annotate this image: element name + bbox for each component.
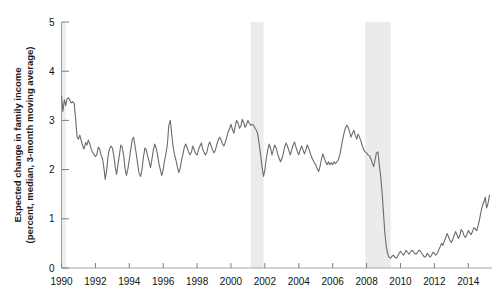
x-axis-tick-label: 1996	[152, 276, 175, 287]
x-axis-tick-label: 2008	[355, 276, 378, 287]
recession-band	[62, 22, 66, 268]
y-axis-title-group: Expected change in family income(percent…	[12, 47, 35, 244]
data-line-group	[62, 96, 490, 258]
y-axis-tick-label: 3	[49, 115, 55, 126]
y-axis-tick-label: 5	[49, 17, 55, 28]
x-axis-tick-label: 1992	[84, 276, 107, 287]
x-axis-tick-label: 2006	[322, 276, 345, 287]
x-axis-tick-label: 2004	[288, 276, 311, 287]
x-axis-tick-label: 2010	[389, 276, 412, 287]
recession-band	[365, 22, 390, 268]
y-axis-ticks-group: 012345	[49, 17, 69, 274]
chart-figure: 012345 199019921994199619982000200220042…	[0, 0, 499, 303]
y-axis-title-line-1: Expected change in family income	[12, 67, 23, 222]
y-axis-tick-label: 1	[49, 213, 55, 224]
y-axis-title-line-2: (percent, median, 3-month moving average…	[24, 47, 35, 244]
y-axis-tick-label: 0	[49, 263, 55, 274]
expected-income-change-line-chart: 012345 199019921994199619982000200220042…	[0, 0, 499, 303]
x-axis-tick-label: 1990	[50, 276, 73, 287]
recession-band	[251, 22, 264, 268]
x-axis-tick-label: 1994	[118, 276, 141, 287]
x-axis-tick-label: 2012	[423, 276, 446, 287]
x-axis-ticks-group: 1990199219941996199820002002200420062008…	[50, 263, 479, 287]
x-axis-tick-label: 2000	[220, 276, 243, 287]
axes-group	[62, 22, 493, 268]
x-axis-tick-label: 2014	[457, 276, 480, 287]
y-axis-tick-label: 4	[49, 66, 55, 77]
y-axis-tick-label: 2	[49, 164, 55, 175]
data-series-line	[62, 96, 490, 258]
x-axis-tick-label: 1998	[186, 276, 209, 287]
x-axis-tick-label: 2002	[254, 276, 277, 287]
